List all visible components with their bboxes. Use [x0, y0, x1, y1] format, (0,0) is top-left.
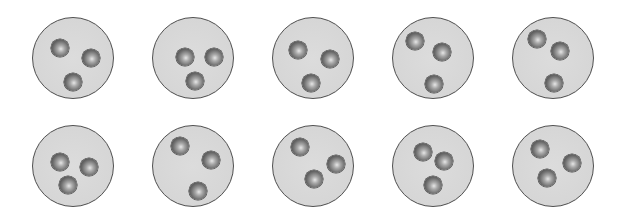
sphere-icon — [425, 75, 443, 93]
sphere-icon — [545, 74, 563, 92]
sphere-icon — [59, 176, 77, 194]
sphere-icon — [51, 39, 69, 57]
sphere-icon — [176, 48, 194, 66]
sphere-icon — [202, 151, 220, 169]
sphere-icon — [186, 72, 204, 90]
figure-canvas — [0, 0, 631, 222]
dish-9 — [392, 125, 474, 207]
sphere-icon — [289, 41, 307, 59]
sphere-icon — [302, 74, 320, 92]
sphere-icon — [424, 176, 442, 194]
sphere-icon — [171, 137, 189, 155]
sphere-icon — [433, 43, 451, 61]
sphere-icon — [291, 138, 309, 156]
sphere-icon — [531, 140, 549, 158]
sphere-icon — [80, 158, 98, 176]
sphere-icon — [538, 169, 556, 187]
sphere-icon — [563, 154, 581, 172]
sphere-icon — [64, 73, 82, 91]
sphere-icon — [327, 155, 345, 173]
sphere-icon — [435, 152, 453, 170]
sphere-icon — [205, 48, 223, 66]
sphere-icon — [321, 50, 339, 68]
sphere-icon — [189, 182, 207, 200]
sphere-icon — [551, 42, 569, 60]
sphere-icon — [51, 153, 69, 171]
sphere-icon — [406, 32, 424, 50]
sphere-icon — [528, 30, 546, 48]
dish-10 — [512, 125, 594, 207]
sphere-icon — [414, 143, 432, 161]
sphere-icon — [82, 49, 100, 67]
sphere-icon — [305, 170, 323, 188]
dish-6 — [32, 125, 114, 207]
